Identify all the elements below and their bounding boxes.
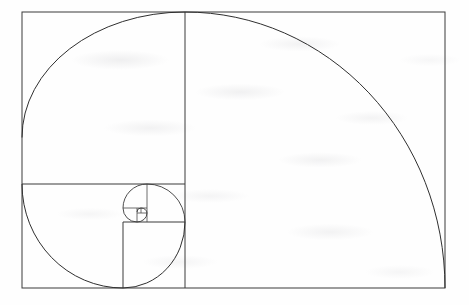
golden-rectangle-outline bbox=[22, 12, 445, 288]
spiral-arc-2 bbox=[22, 12, 185, 138]
fibonacci-spiral-figure: Golden ratio Fibonacci spiral A golden r… bbox=[0, 0, 469, 305]
spiral-arc-3 bbox=[22, 184, 123, 288]
spiral-arc-9 bbox=[141, 208, 147, 213]
spiral-arc-1 bbox=[185, 12, 445, 288]
spiral-arc-6 bbox=[123, 184, 147, 208]
spiral-arc-5 bbox=[147, 184, 185, 222]
golden-spiral-svg bbox=[0, 0, 469, 305]
spiral-arc-4 bbox=[123, 222, 185, 288]
spiral-arc-7 bbox=[123, 208, 137, 222]
spiral-arc-8 bbox=[137, 213, 147, 222]
spiral-arc-10 bbox=[137, 208, 141, 212]
